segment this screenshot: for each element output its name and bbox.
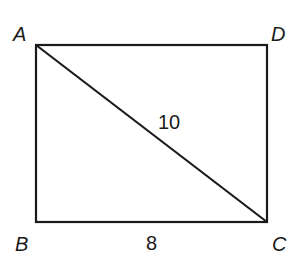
vertex-label-b: B (15, 233, 28, 255)
side-bc-length: 8 (146, 232, 157, 254)
vertex-label-c: C (272, 233, 287, 255)
diagonal-ac (36, 45, 267, 222)
diagonal-ac-length: 10 (158, 111, 180, 133)
rectangle-diagram: A D B C 8 10 (0, 0, 300, 259)
vertex-label-a: A (12, 23, 26, 45)
vertex-label-d: D (271, 23, 285, 45)
